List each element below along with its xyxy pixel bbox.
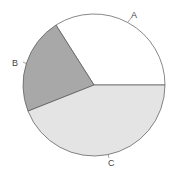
slice-label-a-group: A bbox=[128, 10, 137, 22]
slice-label-b-group: B bbox=[12, 58, 27, 68]
slice-label-c-group: C bbox=[108, 154, 115, 168]
slice-label-c: C bbox=[108, 158, 115, 168]
pie-slices bbox=[23, 14, 165, 156]
slice-label-a: A bbox=[131, 10, 137, 20]
slice-label-b: B bbox=[12, 58, 18, 68]
pie-chart: A B C bbox=[0, 0, 177, 174]
